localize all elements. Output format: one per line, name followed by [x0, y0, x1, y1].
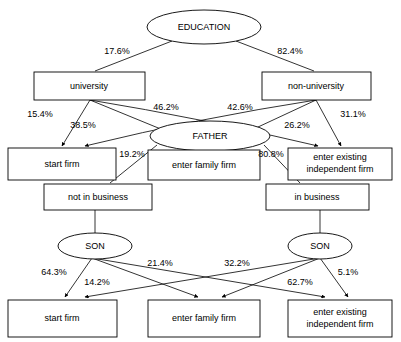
- node-non-university-label: non-university: [288, 81, 345, 91]
- edge-label-university-enter-family-firm: 38.5%: [70, 120, 96, 130]
- node-start-firm-bottom-label: start firm: [45, 313, 80, 323]
- edge-label-non-university-enter-existing: 31.1%: [340, 109, 366, 119]
- node-enter-family-firm-bottom-label: enter family firm: [172, 313, 236, 323]
- node-father-label: FATHER: [193, 131, 228, 141]
- edge-label-son-left-start-firm: 64.3%: [41, 267, 67, 277]
- node-education-label: EDUCATION: [178, 22, 230, 32]
- edge-label-son-left-enter-family-firm: 14.2%: [84, 277, 110, 287]
- node-university-label: university: [70, 81, 109, 91]
- edge-label-university-enter-existing: 46.2%: [153, 102, 179, 112]
- edge-son-right-start-firm: [85, 258, 320, 297]
- edge-label-father-not-in-business: 19.2%: [119, 149, 145, 159]
- node-enter-existing-middle-label-line1: enter existing: [313, 152, 367, 162]
- flow-diagram: EDUCATION university non-university FATH…: [0, 0, 401, 342]
- edge-son-right-enter-existing: [320, 258, 348, 297]
- node-son-left-label: SON: [85, 241, 105, 251]
- edge-label-non-university-enter-family-firm: 26.2%: [284, 120, 310, 130]
- edge-label-father-in-business: 80.8%: [258, 149, 284, 159]
- node-enter-existing-middle-label-line2: independent firm: [306, 164, 373, 174]
- node-start-firm-middle-label: start firm: [45, 159, 80, 169]
- node-enter-family-firm-middle-label: enter family firm: [172, 160, 236, 170]
- edge-label-son-right-start-firm: 32.2%: [224, 258, 250, 268]
- edge-label-son-right-enter-family-firm: 62.7%: [287, 277, 313, 287]
- node-son-right-label: SON: [310, 241, 330, 251]
- edge-label-education-non-university: 82.4%: [277, 46, 303, 56]
- edge-label-non-university-start-firm: 42.6%: [227, 102, 253, 112]
- node-in-business-label: in business: [294, 192, 340, 202]
- node-enter-existing-bottom-label-line2: independent firm: [306, 319, 373, 329]
- node-enter-existing-bottom-label-line1: enter existing: [313, 307, 367, 317]
- edge-label-education-university: 17.6%: [104, 46, 130, 56]
- edge-label-son-right-enter-existing: 5.1%: [338, 267, 359, 277]
- node-not-in-business-label: not in business: [68, 192, 129, 202]
- edge-non-university-enter-existing: [316, 100, 341, 146]
- edge-label-university-start-firm: 15.4%: [27, 109, 53, 119]
- edge-label-son-left-enter-existing: 21.4%: [147, 258, 173, 268]
